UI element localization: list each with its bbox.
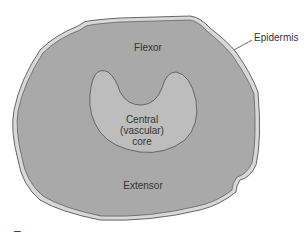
label-epidermis: Epidermis [254,32,298,43]
corner-mark: – [14,226,21,237]
epidermis-leader-line [234,40,252,50]
label-flexor: Flexor [118,42,178,53]
label-core: core [112,136,172,147]
label-central: Central [112,114,172,125]
label-vascular: (vascular) [112,125,172,136]
label-extensor: Extensor [108,180,178,191]
